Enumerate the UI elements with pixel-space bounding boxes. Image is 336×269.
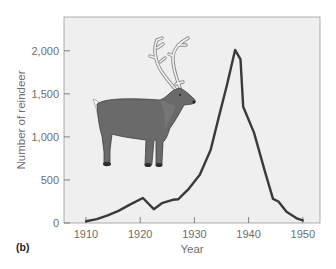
- y-tick-label: 2,000: [31, 45, 59, 57]
- panel-label: (b): [16, 241, 29, 253]
- reindeer-population-chart: 05001,0001,5002,000 19101920193019401950…: [0, 0, 336, 269]
- y-tick-label: 0: [53, 217, 59, 229]
- y-tick-label: 500: [41, 174, 59, 186]
- x-axis-title: Year: [180, 243, 203, 255]
- y-axis-title: Number of reindeer: [15, 70, 27, 169]
- y-tick-label: 1,000: [31, 131, 59, 143]
- x-tick-label: 1920: [128, 228, 152, 240]
- x-tick-label: 1940: [236, 228, 260, 240]
- x-tick-label: 1910: [74, 228, 98, 240]
- x-tick-label: 1950: [291, 228, 315, 240]
- y-tick-label: 1,500: [31, 88, 59, 100]
- x-tick-label: 1930: [182, 228, 206, 240]
